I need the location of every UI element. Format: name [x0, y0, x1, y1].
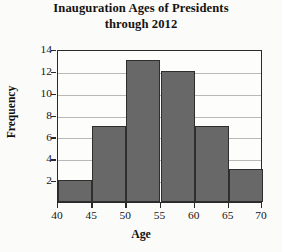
y-tick-mark: [51, 72, 56, 73]
y-tick-mark: [51, 137, 56, 138]
y-axis-label: Frequency: [6, 76, 18, 148]
y-tick-mark: [51, 116, 56, 117]
y-tick-label: 14: [30, 44, 52, 55]
plot-area: [57, 50, 262, 203]
histogram-screenshot: Inauguration Ages of Presidents through …: [0, 0, 282, 252]
x-tick-mark: [261, 203, 262, 208]
y-tick-mark: [51, 159, 56, 160]
x-axis-label: Age: [0, 228, 282, 241]
bar-40-45: [58, 180, 92, 202]
x-tick-label: 50: [110, 209, 140, 221]
bar-65-70: [229, 169, 263, 202]
bar-50-55: [126, 60, 160, 202]
y-tick-label: 6: [30, 132, 52, 143]
y-tick-label: 4: [30, 153, 52, 164]
x-tick-mark: [228, 203, 229, 208]
x-tick-mark: [160, 203, 161, 208]
x-tick-label: 45: [76, 209, 106, 221]
bars: [58, 51, 261, 202]
y-tick-mark: [51, 94, 56, 95]
x-tick-label: 70: [246, 209, 276, 221]
x-tick-label: 55: [145, 209, 175, 221]
x-tick-mark: [194, 203, 195, 208]
x-tick-mark: [91, 203, 92, 208]
x-tick-label: 60: [179, 209, 209, 221]
bar-45-50: [92, 126, 126, 203]
y-tick-label: 8: [30, 110, 52, 121]
y-tick-label: 2: [30, 175, 52, 186]
x-tick-mark: [57, 203, 58, 208]
bar-60-65: [195, 126, 229, 203]
chart-title-line-1: Inauguration Ages of Presidents: [53, 1, 228, 15]
x-tick-mark: [125, 203, 126, 208]
y-tick-mark: [51, 50, 56, 51]
x-tick-label: 65: [213, 209, 243, 221]
y-tick-mark: [51, 181, 56, 182]
y-tick-label: 10: [30, 88, 52, 99]
x-tick-label: 40: [42, 209, 72, 221]
y-tick-label: 12: [30, 66, 52, 77]
bar-55-60: [161, 71, 195, 202]
